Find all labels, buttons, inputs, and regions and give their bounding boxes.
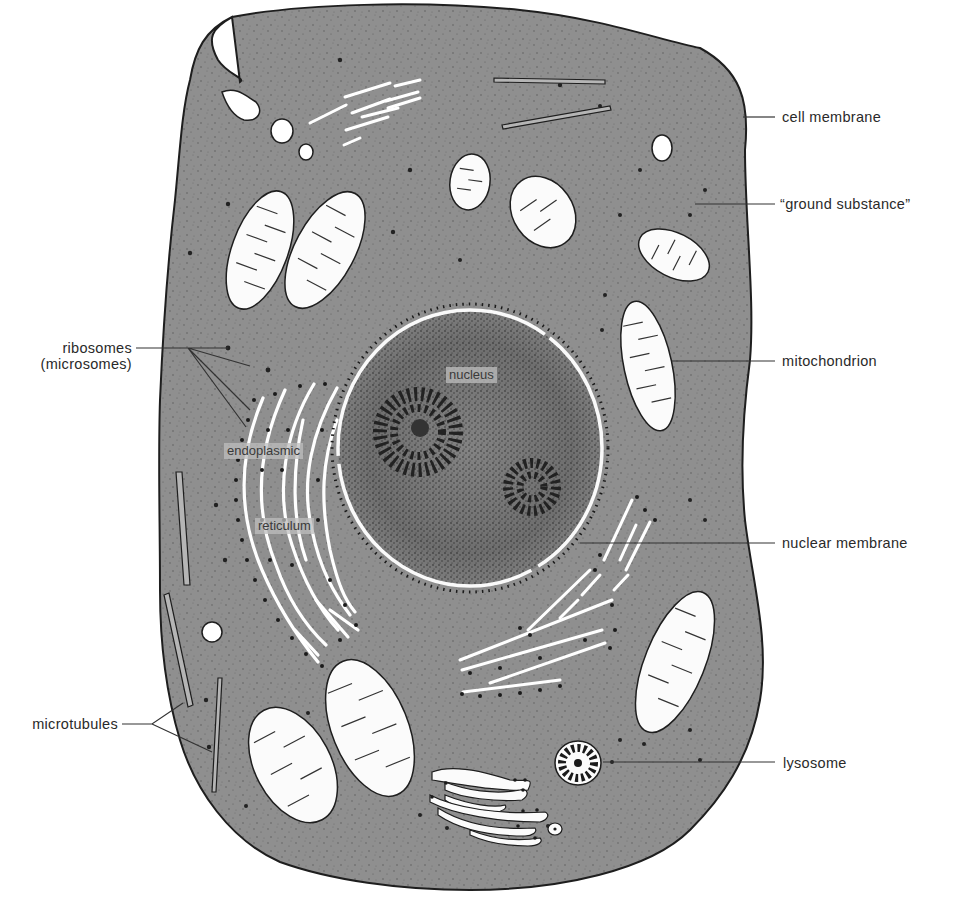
label-ground-substance: “ground substance”: [780, 196, 910, 212]
label-nuclear-membrane: nuclear membrane: [782, 535, 908, 551]
label-cell-membrane: cell membrane: [782, 109, 881, 125]
label-microtubules: microtubules: [8, 716, 118, 732]
vesicle: [652, 135, 672, 161]
label-lysosome: lysosome: [783, 755, 847, 771]
vesicle: [271, 119, 293, 143]
label-ribosomes-line2: (microsomes): [20, 356, 132, 372]
lysosome: [555, 741, 601, 785]
vesicle: [299, 144, 313, 160]
label-mitochondrion: mitochondrion: [782, 353, 877, 369]
label-ribosomes: ribosomes (microsomes): [20, 340, 132, 372]
label-endoplasmic: endoplasmic: [224, 443, 303, 459]
label-reticulum: reticulum: [255, 518, 314, 534]
vesicle: [202, 622, 222, 642]
label-nucleus: nucleus: [446, 367, 497, 383]
label-ribosomes-line1: ribosomes: [20, 340, 132, 356]
